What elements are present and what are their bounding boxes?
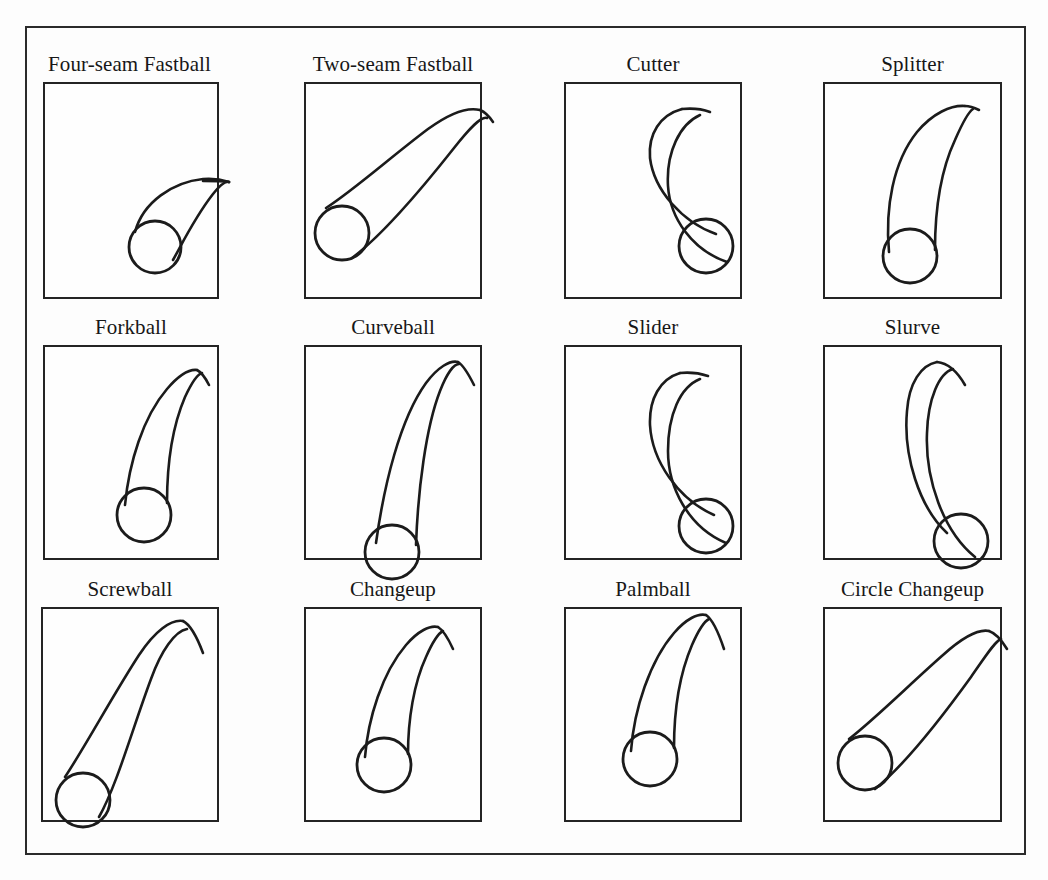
pitch-panel-cutter: Cutter [560,52,746,303]
pitch-panel-screwball: Screwball [37,577,223,826]
pitch-label-circle-changeup: Circle Changeup [819,577,1006,601]
pitch-panel-two-seam-fastball: Two-seam Fastball [300,52,486,303]
pitch-box-two-seam-fastball [304,82,482,299]
pitch-panel-palmball: Palmball [560,577,746,826]
pitch-panel-curveball: Curveball [300,315,486,564]
pitch-label-cutter: Cutter [560,52,746,76]
caption-remnant [34,866,994,878]
pitch-label-palmball: Palmball [560,577,746,601]
pitch-box-changeup [304,607,482,822]
pitch-label-slurve: Slurve [819,315,1006,339]
pitch-label-changeup: Changeup [300,577,486,601]
pitch-label-two-seam-fastball: Two-seam Fastball [300,52,486,76]
pitch-box-slider [564,345,742,560]
pitch-panel-slider: Slider [560,315,746,564]
pitch-box-splitter [823,82,1002,299]
pitch-box-screwball [41,607,219,822]
pitch-panel-slurve: Slurve [819,315,1006,564]
pitch-box-circle-changeup [823,607,1002,822]
pitch-panel-circle-changeup: Circle Changeup [819,577,1006,826]
pitch-box-palmball [564,607,742,822]
pitch-panel-forkball: Forkball [39,315,223,564]
pitch-label-curveball: Curveball [300,315,486,339]
pitch-label-forkball: Forkball [39,315,223,339]
pitch-box-forkball [43,345,219,560]
pitch-box-slurve [823,345,1002,560]
pitch-box-four-seam-fastball [43,82,219,299]
pitch-panel-four-seam-fastball: Four-seam Fastball [39,52,223,303]
pitch-box-curveball [304,345,482,560]
pitch-label-screwball: Screwball [37,577,223,601]
pitch-label-four-seam-fastball: Four-seam Fastball [39,52,232,76]
pitch-label-splitter: Splitter [819,52,1006,76]
figure-root: Four-seam FastballTwo-seam FastballCutte… [0,0,1048,880]
pitch-panel-splitter: Splitter [819,52,1006,303]
pitch-label-slider: Slider [560,315,746,339]
pitch-panel-changeup: Changeup [300,577,486,826]
pitch-box-cutter [564,82,742,299]
pitch-panel-grid: Four-seam FastballTwo-seam FastballCutte… [0,0,1048,880]
